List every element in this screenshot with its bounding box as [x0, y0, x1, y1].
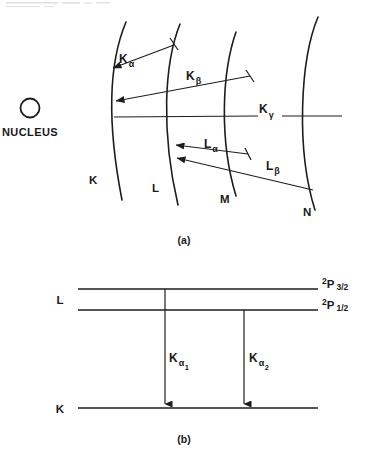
k-beta-label: Kβ: [186, 69, 202, 86]
panel-b: L K 2P3/2 2P1/2 Kα1: [56, 276, 349, 445]
nucleus-circle-icon: [21, 99, 40, 118]
xray-transitions-figure: NUCLEUS K L M N: [0, 0, 373, 459]
level-group-label-K: K: [56, 403, 65, 415]
transition-l-alpha: Lα: [176, 137, 251, 160]
nucleus-group: NUCLEUS: [2, 99, 58, 139]
transition-k-beta: Kβ: [116, 69, 254, 101]
scan-artifact: [6, 2, 110, 7]
figure-root: NUCLEUS K L M N: [0, 0, 373, 459]
k-alpha-label: Kα: [119, 52, 135, 69]
k-gamma-label: Kγ: [259, 102, 274, 120]
shell-labels: K L M N: [89, 174, 311, 218]
k-alpha-1-label: Kα1: [169, 351, 189, 372]
shell-label-N: N: [303, 206, 311, 218]
transition-k-alpha-2: Kα2: [244, 310, 269, 404]
transition-arrows: Kα Kβ Kγ: [113, 38, 342, 190]
nucleus-label: NUCLEUS: [2, 126, 58, 138]
transition-l-beta: Lβ: [177, 158, 313, 190]
panel-a: NUCLEUS K L M N: [2, 17, 342, 246]
shell-label-M: M: [220, 193, 230, 205]
k-alpha-2-label: Kα2: [249, 351, 269, 372]
level-group-label-L: L: [56, 294, 63, 306]
term-symbols: 2P3/2 2P1/2: [322, 276, 348, 313]
term-symbol-2P12: 2P1/2: [322, 297, 348, 313]
shell-label-L: L: [152, 182, 159, 194]
l-alpha-label: Lα: [204, 137, 218, 154]
energy-levels: [78, 289, 318, 408]
transition-k-alpha: Kα: [113, 38, 178, 69]
term-symbol-2P32: 2P3/2: [322, 276, 348, 292]
level-transitions: Kα1 Kα2: [165, 289, 269, 404]
shell-arc-L: [167, 24, 180, 205]
panel-b-caption: (b): [177, 433, 190, 445]
k-beta-arrow: [116, 76, 250, 101]
panel-a-caption: (a): [178, 234, 191, 246]
shell-arc-K: [112, 22, 126, 200]
shell-label-K: K: [89, 174, 98, 186]
level-group-labels: L K: [56, 294, 65, 415]
transition-k-alpha-1: Kα1: [165, 289, 189, 404]
k-gamma-line-left: [114, 116, 258, 117]
l-beta-arrow: [177, 158, 313, 190]
shell-arc-N: [303, 17, 318, 210]
l-beta-label: Lβ: [266, 159, 280, 176]
shell-arcs: [112, 17, 318, 210]
transition-k-gamma: Kγ: [114, 102, 342, 120]
